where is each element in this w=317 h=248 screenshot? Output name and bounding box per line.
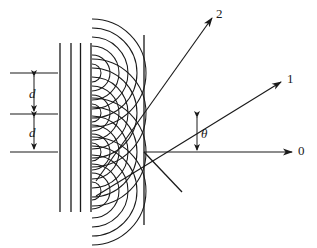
- slit-spacing-label-bottom: d: [29, 126, 36, 139]
- diffracted-rays: [96, 18, 292, 196]
- ray-order-2: [96, 18, 212, 181]
- diagram-canvas: [0, 0, 317, 248]
- ray-tail-extension: [144, 152, 182, 192]
- incident-plane-wavefronts: [60, 43, 91, 212]
- diffraction-grating-figure: 2 1 0 d d θ: [0, 0, 317, 248]
- ray-label-order-0: 0: [298, 144, 305, 157]
- slit-spacing-label-top: d: [29, 87, 36, 100]
- angle-theta-label: θ: [201, 127, 207, 140]
- ray-order-1: [96, 82, 281, 196]
- ray-label-order-1: 1: [287, 72, 294, 85]
- ray-label-order-2: 2: [216, 7, 223, 20]
- huygens-wavelets: [92, 19, 146, 245]
